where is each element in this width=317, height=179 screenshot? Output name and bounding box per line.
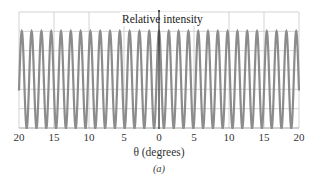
x-tick-label: 10 — [84, 131, 96, 143]
figure-caption: (a) — [153, 163, 166, 175]
x-tick-label: 20 — [294, 131, 306, 143]
x-tick-label: 0 — [156, 131, 162, 143]
x-tick-label: 20 — [14, 131, 26, 143]
x-tick-label: 5 — [121, 131, 127, 143]
x-axis-label: θ (degrees) — [133, 146, 184, 159]
x-tick-label: 15 — [259, 131, 271, 143]
y-axis-label: Relative intensity — [122, 13, 203, 26]
interference-chart: Relative intensity 201510505101520 θ (de… — [0, 0, 317, 179]
x-tick-label: 10 — [224, 131, 236, 143]
x-tick-labels: 201510505101520 — [14, 131, 306, 143]
x-tick-label: 5 — [191, 131, 197, 143]
x-tick-label: 15 — [49, 131, 61, 143]
